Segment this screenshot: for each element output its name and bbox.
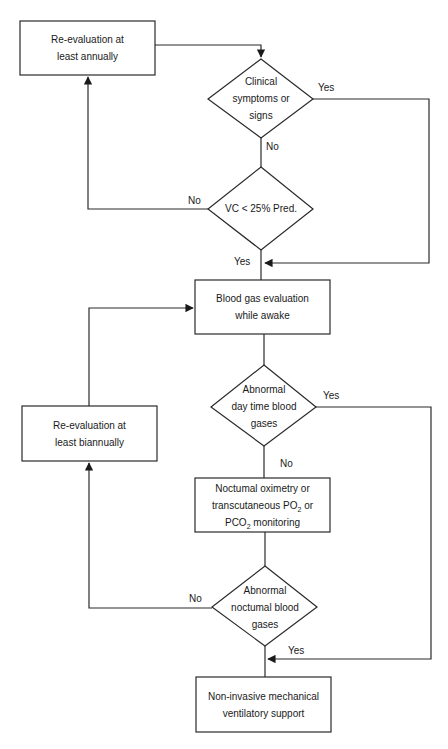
abn-day-line2: day time blood bbox=[214, 398, 314, 415]
reeval-biannual-node: Re-evaluation at least biannually bbox=[22, 417, 157, 451]
nocturnal-monitoring-node: Noctumal oximetry or transcutaneous PO2 … bbox=[195, 480, 330, 531]
edge-label-clinical-yes: Yes bbox=[318, 82, 334, 93]
niv-line1: Non-invasive mechanical bbox=[196, 688, 331, 705]
abn-night-line3: gases bbox=[215, 616, 315, 633]
edge-label-vc-yes: Yes bbox=[234, 256, 250, 267]
niv-line2: ventilatory support bbox=[196, 705, 331, 722]
reeval-annual-node: Re-evaluation at least annually bbox=[20, 31, 155, 65]
edge-label-clinical-no: No bbox=[266, 141, 279, 152]
reeval-annual-line2: least annually bbox=[20, 48, 155, 65]
vc-line1: VC < 25% Pred. bbox=[211, 200, 311, 217]
abn-night-node: Abnormal noctumal blood gases bbox=[215, 582, 315, 633]
vc-node: VC < 25% Pred. bbox=[211, 200, 311, 217]
edge-label-day-yes: Yes bbox=[323, 390, 339, 401]
flowchart-canvas: Re-evaluation at least annually Clinical… bbox=[0, 0, 448, 749]
blood-gas-node: Blood gas evaluation while awake bbox=[195, 290, 330, 324]
edge-label-night-no: No bbox=[189, 593, 202, 604]
blood-gas-line2: while awake bbox=[195, 307, 330, 324]
reeval-biannual-line1: Re-evaluation at bbox=[22, 417, 157, 434]
abn-night-line2: noctumal blood bbox=[215, 599, 315, 616]
reeval-biannual-line2: least biannually bbox=[22, 434, 157, 451]
nocturnal-line2: transcutaneous PO2 or bbox=[195, 497, 330, 514]
nocturnal-line3-text: PCO bbox=[225, 517, 247, 528]
clinical-line2: symptoms or bbox=[211, 90, 311, 107]
abn-day-line1: Abnormal bbox=[214, 381, 314, 398]
abn-night-line1: Abnormal bbox=[215, 582, 315, 599]
clinical-line3: signs bbox=[211, 107, 311, 124]
niv-node: Non-invasive mechanical ventilatory supp… bbox=[196, 688, 331, 722]
edge-label-vc-no: No bbox=[188, 195, 201, 206]
nocturnal-line3-post: monitoring bbox=[251, 517, 300, 528]
nocturnal-line2-text: transcutaneous PO bbox=[212, 500, 298, 511]
reeval-annual-line1: Re-evaluation at bbox=[20, 31, 155, 48]
edge-label-night-yes: Yes bbox=[288, 645, 304, 656]
nocturnal-line1: Noctumal oximetry or bbox=[195, 480, 330, 497]
abn-day-node: Abnormal day time blood gases bbox=[214, 381, 314, 432]
blood-gas-line1: Blood gas evaluation bbox=[195, 290, 330, 307]
nocturnal-line3: PCO2 monitoring bbox=[195, 514, 330, 531]
edge-label-day-no: No bbox=[280, 458, 293, 469]
clinical-line1: Clinical bbox=[211, 73, 311, 90]
abn-day-line3: gases bbox=[214, 415, 314, 432]
clinical-node: Clinical symptoms or signs bbox=[211, 73, 311, 124]
nocturnal-line2-post: or bbox=[301, 500, 313, 511]
